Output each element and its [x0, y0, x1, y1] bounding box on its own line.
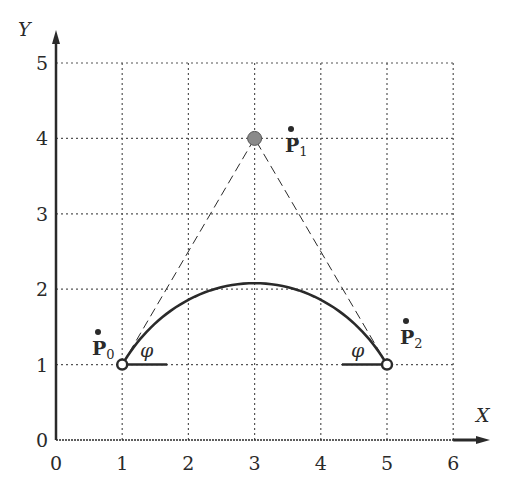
control-polygon-line: [122, 138, 387, 364]
point-label-p0: P0: [92, 337, 115, 362]
tick-labels: 0123456123450: [36, 52, 459, 474]
x-tick-label: 5: [381, 452, 393, 474]
y-axis-arrow-icon: [52, 30, 60, 44]
x-tick-label: 0: [50, 452, 62, 474]
x-tick-label: 4: [315, 452, 327, 474]
control-polygon: [122, 138, 387, 364]
x-axis-arrow-icon: [476, 436, 490, 444]
y-tick-label: 4: [36, 127, 48, 149]
x-tick-label: 6: [447, 452, 459, 474]
y-tick-label: 1: [36, 354, 48, 376]
y-tick-label: 2: [36, 278, 48, 300]
control-points: P0P1P2: [92, 126, 423, 370]
y-axis-label: Y: [18, 18, 33, 40]
y-tick-label: 5: [36, 52, 48, 74]
x-tick-label: 1: [116, 452, 128, 474]
point-label-p1: P1: [285, 134, 308, 159]
x-tick-label: 3: [249, 452, 261, 474]
grid-lines: [56, 63, 453, 440]
origin-label: 0: [36, 429, 48, 451]
point-dot-accent: [403, 318, 409, 324]
point-dot-accent: [95, 329, 101, 335]
point-dot-accent: [288, 126, 294, 132]
angle-label-phi-p2: φ: [351, 339, 365, 361]
point-marker-p0: [117, 360, 127, 370]
point-marker-p1: [248, 131, 262, 145]
bezier-arc-diagram: YX 0123456123450 φφ P0P1P2: [0, 0, 521, 488]
angle-label-phi-p0: φ: [140, 339, 154, 361]
point-label-p2: P2: [400, 326, 423, 351]
point-marker-p2: [382, 360, 392, 370]
y-tick-label: 3: [36, 203, 48, 225]
axes: YX: [18, 18, 491, 444]
x-tick-label: 2: [182, 452, 194, 474]
x-axis-label: X: [474, 404, 491, 426]
